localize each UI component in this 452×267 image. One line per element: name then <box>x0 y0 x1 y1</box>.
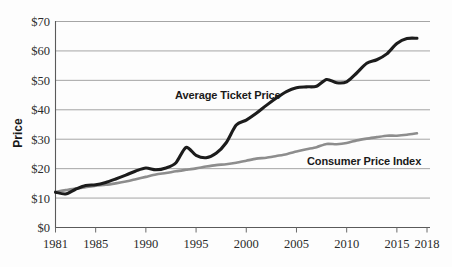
x-tick-label-2015: 2015 <box>384 237 409 251</box>
y-tick-label-10: $10 <box>31 192 50 206</box>
y-tick-label-20: $20 <box>31 162 50 176</box>
y-tick-label-0: $0 <box>38 221 51 235</box>
y-tick-label-70: $70 <box>31 15 50 29</box>
line-chart: $0$10$20$30$40$50$60$70 1981198519901995… <box>0 0 452 267</box>
x-tick-labels-group: 198119851990199520002005201020152018 <box>43 237 440 251</box>
y-tick-labels-group: $0$10$20$30$40$50$60$70 <box>31 15 50 235</box>
x-tick-label-2005: 2005 <box>284 237 309 251</box>
y-tick-label-40: $40 <box>31 103 50 117</box>
x-tick-label-2000: 2000 <box>234 237 259 251</box>
x-tick-label-1981: 1981 <box>43 237 68 251</box>
x-tick-label-1985: 1985 <box>83 237 108 251</box>
series-label-consumer-price-index: Consumer Price Index <box>307 155 422 167</box>
x-tick-label-2010: 2010 <box>334 237 359 251</box>
x-tickmarks-group <box>56 228 428 233</box>
x-tick-label-1995: 1995 <box>184 237 209 251</box>
gridlines-group <box>56 22 431 199</box>
x-tick-label-1990: 1990 <box>133 237 158 251</box>
series-label-average-ticket-price: Average Ticket Price <box>175 89 281 101</box>
y-axis-title: Price <box>11 118 25 148</box>
series-line-average-ticket-price <box>56 38 417 194</box>
chart-container: $0$10$20$30$40$50$60$70 1981198519901995… <box>0 0 452 267</box>
y-tick-label-60: $60 <box>31 44 50 58</box>
y-tick-label-50: $50 <box>31 74 50 88</box>
y-tick-label-30: $30 <box>31 133 50 147</box>
x-tick-label-2018: 2018 <box>415 237 440 251</box>
